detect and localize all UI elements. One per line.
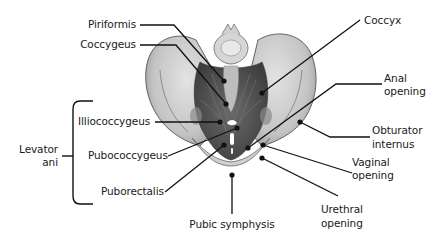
label-obturator-line2: internus bbox=[372, 138, 414, 150]
sacrum bbox=[214, 24, 248, 64]
label-vaginal-line1: Vaginal bbox=[352, 156, 390, 168]
label-vaginal-line2: opening bbox=[352, 169, 394, 181]
vaginal-opening bbox=[230, 133, 234, 145]
label-anal-line2: opening bbox=[384, 85, 426, 97]
label-coccyx: Coccyx bbox=[364, 14, 401, 26]
label-levator-ani-line2: ani bbox=[14, 156, 58, 168]
label-pubococcygeus: Pubococcygeus bbox=[88, 149, 168, 161]
urethral-opening bbox=[231, 148, 233, 154]
label-urethral-line2: opening bbox=[321, 217, 363, 229]
pelvic-floor-muscles bbox=[194, 62, 268, 160]
label-pubic-symphysis: Pubic symphysis bbox=[177, 218, 287, 230]
label-coccygeus: Coccygeus bbox=[60, 38, 136, 50]
label-puborectalis: Puborectalis bbox=[101, 185, 164, 197]
label-piriformis: Piriformis bbox=[60, 18, 136, 30]
label-obturator-line1: Obturator bbox=[372, 124, 422, 136]
label-levator-ani-line1: Levator bbox=[14, 143, 58, 155]
pelvic-floor-diagram: Piriformis Coccygeus Coccyx Illiococcyge… bbox=[0, 0, 445, 242]
label-anal-line1: Anal bbox=[384, 72, 407, 84]
right-obturator-region bbox=[260, 107, 272, 125]
label-urethral-line1: Urethral bbox=[321, 203, 363, 215]
pelvis-illustration bbox=[0, 0, 445, 242]
label-illiococcygeus: Illiococcygeus bbox=[78, 115, 150, 127]
